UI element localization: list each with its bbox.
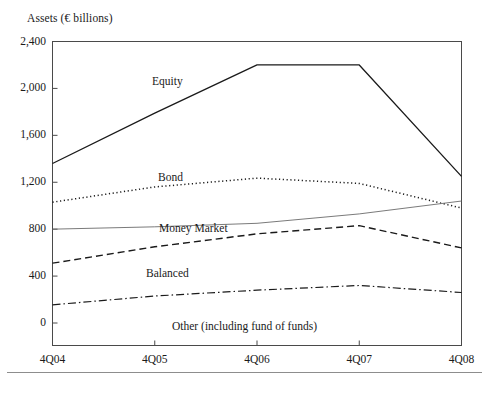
series-line-bond [53, 178, 462, 208]
y-tick-label: 1,200 [2, 176, 46, 188]
y-tick-label: 0 [2, 317, 46, 329]
x-tick-label: 4Q07 [329, 354, 389, 366]
series-label-money-market: Money Market [159, 223, 228, 235]
series-line-other [53, 285, 462, 304]
x-axis-ticks [155, 341, 360, 346]
y-tick-label: 2,400 [2, 36, 46, 48]
series-label-bond: Bond [158, 172, 183, 184]
footer-rule [7, 372, 482, 373]
y-tick-label: 400 [2, 270, 46, 282]
series-line-balanced [53, 226, 462, 264]
data-series-group [53, 65, 462, 305]
chart-figure: Assets (€ billions) 04008001,2001,6002,0… [0, 0, 489, 393]
y-tick-label: 800 [2, 223, 46, 235]
y-axis-ticks [53, 42, 58, 324]
series-label-balanced: Balanced [146, 268, 189, 280]
series-line-equity [53, 65, 462, 176]
x-tick-label: 4Q05 [125, 354, 185, 366]
y-tick-label: 2,000 [2, 82, 46, 94]
x-tick-label: 4Q04 [23, 354, 83, 366]
series-line-money [53, 201, 462, 229]
y-tick-label: 1,600 [2, 129, 46, 141]
x-tick-label: 4Q08 [432, 354, 489, 366]
series-label-equity: Equity [152, 76, 183, 88]
chart-plot-area [0, 0, 489, 393]
series-label-other: Other (including fund of funds) [172, 321, 317, 333]
x-tick-label: 4Q06 [227, 354, 287, 366]
